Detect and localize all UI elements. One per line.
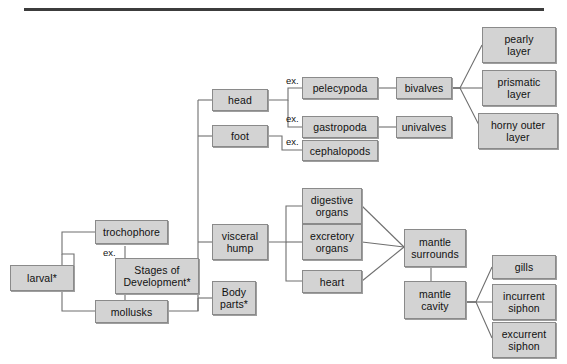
node-foot-label: foot: [229, 130, 251, 142]
node-digestive-organs-label: digestive organs: [309, 194, 355, 218]
node-visceral-hump-label: visceral hump: [220, 230, 260, 254]
node-cephalopods-label: cephalopods: [308, 145, 373, 157]
node-excurrent-siphon[interactable]: excurrent siphon: [492, 322, 556, 358]
edge-label-ex-pelecypoda: ex.: [286, 76, 299, 86]
node-pearly-layer-label: pearly layer: [502, 33, 535, 57]
node-mollusks-label: mollusks: [109, 306, 155, 318]
node-excurrent-siphon-label: excurrent siphon: [500, 328, 549, 352]
node-excretory-organs[interactable]: excretory organs: [302, 224, 362, 260]
edge-label-ex-cephalopods: ex.: [286, 137, 299, 147]
node-gastropoda[interactable]: gastropoda: [302, 116, 378, 138]
node-head-label: head: [226, 94, 254, 106]
node-horny-outer-layer-label: horny outer layer: [489, 119, 547, 143]
edge-label-ex-gastropoda: ex.: [286, 114, 299, 124]
node-incurrent-siphon-label: incurrent siphon: [501, 290, 547, 314]
node-pelecypoda[interactable]: pelecypoda: [302, 77, 378, 99]
node-stages-of-development-label: Stages of Development*: [121, 264, 192, 288]
node-mollusks[interactable]: mollusks: [95, 300, 168, 323]
node-stages-of-development[interactable]: Stages of Development*: [115, 258, 199, 294]
node-gills-label: gills: [513, 261, 536, 273]
node-body-parts-label: Body parts*: [218, 286, 250, 310]
concept-map-figure: larval* trochophore ex. Stages of Develo…: [0, 0, 567, 364]
node-heart[interactable]: heart: [302, 270, 362, 293]
horizontal-rule: [24, 8, 544, 11]
node-gills[interactable]: gills: [492, 255, 556, 279]
node-bivalves[interactable]: bivalves: [396, 77, 452, 99]
node-prismatic-layer-label: prismatic layer: [496, 76, 543, 100]
node-pearly-layer[interactable]: pearly layer: [482, 27, 556, 63]
node-mantle-cavity[interactable]: mantle cavity: [404, 281, 466, 319]
node-pelecypoda-label: pelecypoda: [311, 82, 370, 94]
node-visceral-hump[interactable]: visceral hump: [212, 224, 268, 260]
node-mantle-cavity-label: mantle cavity: [417, 288, 453, 312]
node-foot[interactable]: foot: [212, 125, 268, 147]
node-heart-label: heart: [318, 276, 346, 288]
node-digestive-organs[interactable]: digestive organs: [302, 188, 362, 224]
node-prismatic-layer[interactable]: prismatic layer: [482, 70, 556, 106]
node-mantle-surrounds-label: mantle surrounds: [409, 236, 461, 260]
node-horny-outer-layer[interactable]: horny outer layer: [478, 113, 558, 149]
node-larval[interactable]: larval*: [10, 265, 74, 291]
node-trochophore-label: trochophore: [101, 226, 162, 238]
node-incurrent-siphon[interactable]: incurrent siphon: [492, 284, 556, 320]
node-head[interactable]: head: [212, 89, 268, 111]
node-larval-label: larval*: [25, 272, 59, 284]
node-body-parts[interactable]: Body parts*: [212, 281, 256, 315]
node-univalves[interactable]: univalves: [396, 116, 452, 138]
edge-label-ex-trochophore: ex.: [103, 248, 116, 258]
node-trochophore[interactable]: trochophore: [95, 220, 168, 244]
node-cephalopods[interactable]: cephalopods: [302, 140, 378, 161]
node-excretory-organs-label: excretory organs: [308, 230, 356, 254]
node-mantle-surrounds[interactable]: mantle surrounds: [404, 229, 466, 267]
node-bivalves-label: bivalves: [403, 82, 446, 94]
node-univalves-label: univalves: [400, 121, 449, 133]
node-gastropoda-label: gastropoda: [311, 121, 369, 133]
